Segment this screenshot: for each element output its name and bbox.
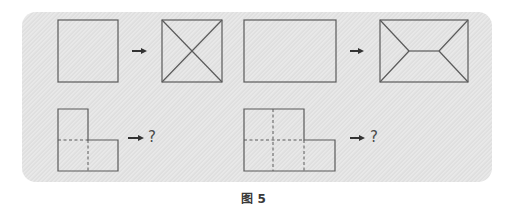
question-mark-2: ? (370, 130, 378, 145)
question-1 (58, 109, 144, 171)
question-mark-1: ? (148, 130, 156, 145)
example-1 (58, 20, 222, 82)
figure-drawing (0, 0, 517, 211)
right-arrow-icon (132, 48, 147, 54)
right-arrow-icon (350, 135, 365, 141)
rectangle-input (244, 20, 336, 82)
rectangle-envelope-output (380, 20, 468, 82)
l-shape-small (58, 109, 118, 171)
figure-caption: 图 5 (0, 189, 507, 206)
square-with-diagonals-output (162, 20, 222, 82)
square-input (58, 20, 118, 82)
right-arrow-icon (128, 135, 144, 141)
l-shape-large (244, 109, 335, 171)
example-2 (244, 20, 468, 82)
right-arrow-icon (350, 48, 364, 54)
question-2 (244, 109, 365, 171)
